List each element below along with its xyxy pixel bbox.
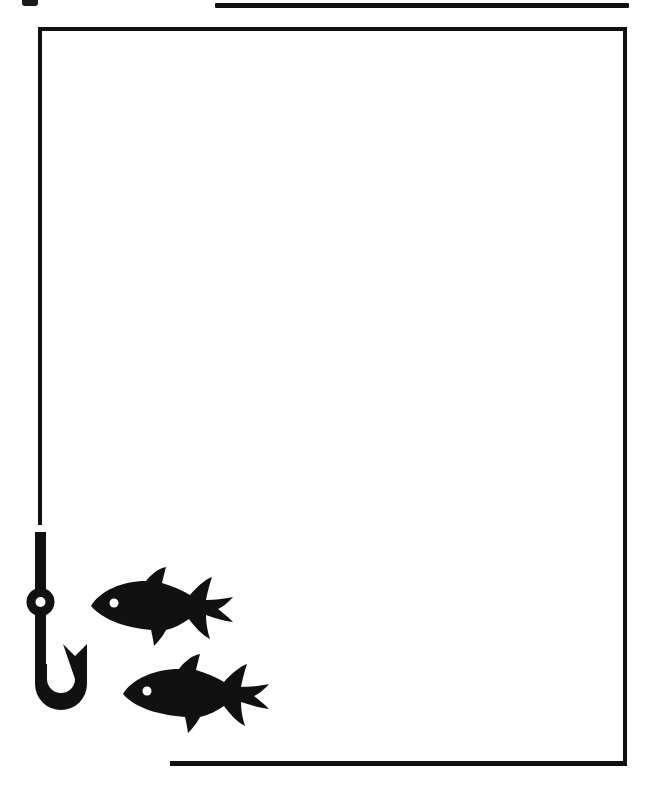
document-page xyxy=(0,0,650,787)
frame-right-edge xyxy=(623,27,627,766)
top-horizontal-rule xyxy=(215,3,629,8)
fishing-hook-icon xyxy=(18,524,98,724)
fish-silhouette-upper xyxy=(88,566,236,648)
frame-top-edge xyxy=(38,27,627,31)
fish-silhouette-lower xyxy=(120,652,272,734)
frame-left-edge-fishing-line xyxy=(38,27,42,525)
frame-bottom-edge xyxy=(170,761,627,766)
top-left-scan-artifact xyxy=(22,0,38,6)
